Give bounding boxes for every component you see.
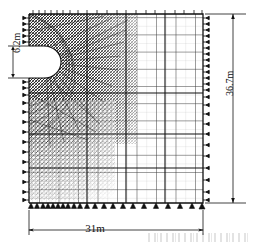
- scan-artifact-smudge: [148, 233, 248, 242]
- mesh-body: [29, 14, 203, 203]
- tunnel-cavity: [29, 46, 61, 78]
- dimension-height-label: 36.7m: [224, 56, 235, 96]
- dimension-cavity-height-label: 6.2m: [11, 13, 22, 53]
- fem-mesh-figure: [0, 0, 257, 248]
